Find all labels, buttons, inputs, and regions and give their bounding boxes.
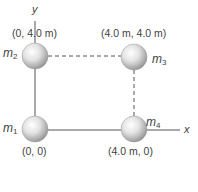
mass-label-m4: m4 <box>146 116 160 130</box>
sphere-m2 <box>22 43 48 69</box>
mass-label-m1: m1 <box>3 122 17 136</box>
x-axis-label: x <box>184 124 190 135</box>
mass-label-m2: m2 <box>3 47 17 61</box>
coord-label-m2: (0, 4.0 m) <box>12 28 57 39</box>
y-axis-label: y <box>32 4 38 15</box>
sphere-m1 <box>22 116 48 142</box>
coord-label-m1: (0, 0) <box>22 146 47 157</box>
coord-label-m4: (4.0 m, 0) <box>108 146 153 157</box>
sphere-m4 <box>121 116 147 142</box>
sphere-m3 <box>121 44 147 70</box>
mass-label-m3: m3 <box>152 53 166 67</box>
coord-label-m3: (4.0 m, 4.0 m) <box>101 28 166 39</box>
